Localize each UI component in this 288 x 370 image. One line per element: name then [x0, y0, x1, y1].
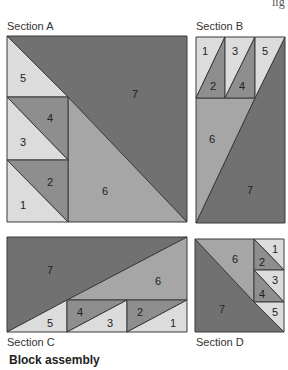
label-c-4: 4 — [77, 306, 83, 318]
label-d-1: 1 — [272, 243, 278, 255]
section-d — [195, 239, 284, 332]
section-b — [196, 37, 285, 223]
block-assembly-diagram: 5 4 3 2 1 6 7 1 2 3 4 5 6 7 7 6 5 4 3 2 … — [0, 0, 288, 370]
label-a-4: 4 — [47, 112, 53, 124]
label-c-7: 7 — [47, 264, 53, 276]
label-c-3: 3 — [107, 317, 113, 329]
label-a-1: 1 — [20, 199, 26, 211]
label-a-2: 2 — [47, 176, 53, 188]
label-d-2: 2 — [259, 256, 265, 268]
label-c-1: 1 — [170, 317, 176, 329]
label-c-5: 5 — [47, 317, 53, 329]
label-c-2: 2 — [137, 306, 143, 318]
label-d-3: 3 — [272, 274, 278, 286]
label-b-1: 1 — [202, 45, 208, 57]
label-d-7: 7 — [219, 303, 225, 315]
label-b-5: 5 — [262, 45, 268, 57]
label-b-4: 4 — [239, 80, 245, 92]
label-d-5: 5 — [272, 306, 278, 318]
label-c-6: 6 — [155, 275, 161, 287]
label-d-6: 6 — [232, 253, 238, 265]
label-b-2: 2 — [210, 80, 216, 92]
label-a-5: 5 — [20, 72, 26, 84]
label-a-3: 3 — [20, 136, 26, 148]
label-b-7: 7 — [247, 184, 253, 196]
label-a-6: 6 — [102, 185, 108, 197]
label-a-7: 7 — [132, 88, 138, 100]
label-b-3: 3 — [232, 45, 238, 57]
section-a — [7, 36, 187, 222]
label-d-4: 4 — [259, 288, 265, 300]
label-b-6: 6 — [209, 133, 215, 145]
